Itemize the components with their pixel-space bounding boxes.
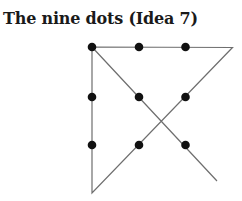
dot-1-1 [88, 43, 97, 52]
dot-1-2 [135, 43, 144, 52]
dot-1-3 [181, 43, 190, 52]
dot-3-3 [181, 141, 190, 150]
dot-2-3 [181, 93, 190, 102]
dot-2-2 [135, 93, 144, 102]
dot-3-2 [135, 141, 144, 150]
dot-2-1 [88, 93, 97, 102]
nine-dots-diagram [0, 0, 242, 201]
dot-3-1 [88, 141, 97, 150]
solution-line-path [92, 47, 233, 193]
